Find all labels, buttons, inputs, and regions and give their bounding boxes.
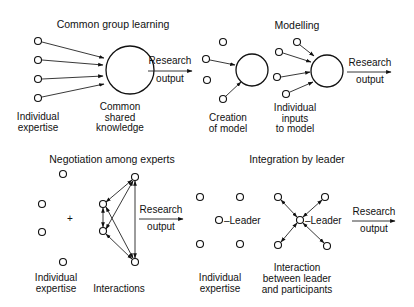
input-arrow — [226, 82, 241, 96]
interaction-leader-label: Interaction — [274, 262, 321, 273]
expert-node — [100, 228, 107, 235]
participant-node — [275, 242, 282, 249]
leader-label: –Leader — [305, 215, 342, 226]
research-output-label: output — [156, 73, 184, 84]
expert-node — [276, 49, 283, 56]
interactions-label: Interactions — [93, 283, 145, 294]
creation-of-model-label: of model — [209, 123, 247, 134]
input-arrow — [290, 82, 313, 92]
panel-integration-by-leader: Integration by leader –Leader –Leader Re… — [197, 153, 396, 295]
participant-node — [324, 243, 331, 250]
participant-node — [322, 194, 329, 201]
expert-node — [39, 201, 46, 208]
research-output-label: Research — [353, 206, 396, 217]
input-arrow — [300, 45, 314, 56]
expert-node — [204, 77, 211, 84]
panel-negotiation-among-experts: Negotiation among experts + Research out… — [35, 153, 183, 294]
expert-node — [237, 241, 244, 248]
participant-node — [275, 194, 282, 201]
interaction-leader-label: between leader — [263, 273, 332, 284]
expert-node — [60, 171, 67, 178]
common-knowledge-label: knowledge — [96, 122, 144, 133]
leader-node — [216, 217, 223, 224]
panel-creation-of-model: Creation of model — [203, 39, 269, 135]
expert-node — [132, 259, 139, 266]
research-output-label: output — [360, 223, 388, 234]
input-arrow — [283, 53, 311, 62]
panel-title: Modelling — [275, 19, 320, 31]
leader-node — [297, 217, 304, 224]
individual-expertise-label: Individual — [199, 272, 241, 283]
individual-expertise-label: expertise — [200, 283, 241, 294]
expert-node — [197, 194, 204, 201]
expert-node — [274, 74, 281, 81]
model-circle — [311, 55, 343, 87]
expert-node — [35, 57, 42, 64]
panel-title: Negotiation among experts — [49, 153, 175, 165]
expert-node — [220, 96, 227, 103]
expert-node — [39, 229, 46, 236]
expert-node — [220, 39, 227, 46]
expert-node — [35, 95, 42, 102]
interaction-edges — [103, 180, 135, 259]
creation-of-model-label: Creation — [209, 112, 247, 123]
input-arrow — [281, 72, 310, 77]
individual-expertise-label: expertise — [36, 283, 77, 294]
expert-node — [60, 259, 67, 266]
research-output-label: output — [356, 74, 384, 85]
expert-node — [132, 174, 139, 181]
research-output-label: Research — [149, 55, 192, 66]
research-collaboration-diagram: Common group learning Research output In… — [0, 0, 414, 307]
plus-sign: + — [67, 213, 73, 224]
expert-node — [237, 194, 244, 201]
research-output-label: output — [147, 221, 175, 232]
research-output-label: Research — [140, 204, 183, 215]
expert-node — [203, 56, 210, 63]
input-arrows — [42, 42, 104, 97]
interaction-leader-label: and participants — [262, 284, 333, 295]
expert-node — [283, 91, 290, 98]
common-knowledge-label: Common — [100, 101, 141, 112]
individual-inputs-label: Individual — [274, 102, 316, 113]
input-arrow — [210, 60, 235, 65]
model-circle — [236, 54, 268, 86]
individual-expertise-label: Individual — [35, 272, 77, 283]
panel-modelling: Modelling Research output Individual inp… — [274, 19, 392, 134]
research-output-label: Research — [349, 57, 392, 68]
expert-node — [294, 39, 301, 46]
panel-common-group-learning: Common group learning Research output In… — [17, 18, 192, 133]
common-knowledge-circle — [106, 46, 154, 94]
panel-title: Integration by leader — [249, 153, 345, 165]
leader-label: –Leader — [224, 215, 261, 226]
individual-inputs-label: to model — [276, 123, 314, 134]
expert-node — [100, 201, 107, 208]
expert-node — [35, 38, 42, 45]
panel-title: Common group learning — [57, 18, 170, 30]
expert-node — [35, 76, 42, 83]
individual-expertise-label: expertise — [18, 122, 59, 133]
expert-nodes — [35, 38, 42, 102]
expert-node — [197, 241, 204, 248]
individual-expertise-label: Individual — [17, 111, 59, 122]
